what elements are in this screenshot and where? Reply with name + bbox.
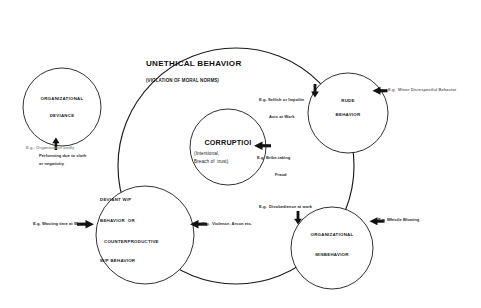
example-violence-arson: E.g. Violence, Arson etc. <box>202 220 252 227</box>
circle-label-rude-behavior-line2: BEHAVIOR <box>322 112 374 118</box>
example-bribe-taking-line1: E.g. Bribe-taking <box>257 154 290 161</box>
example-selfish-impolite-line1: E.g. Selfish or Impolite <box>259 96 304 103</box>
outer-title: UNETHICAL BEHAVIOR <box>146 58 241 70</box>
circle-label-deviant-line3: COUNTERPRODUCTIVE <box>104 239 196 245</box>
circle-label-organizational-deviance-line1: ORGANIZATIONAL <box>32 96 92 102</box>
example-wasting-time: E.g. Wasting time at Wp <box>33 220 80 227</box>
circle-label-organizational-deviance-line2: DEVIANCE <box>32 113 92 119</box>
circle-label-corruption-sub-line2: Breach of trust) <box>194 158 228 166</box>
circle-organizational-misbehavior <box>291 207 373 289</box>
diagram-canvas: UNETHICAL BEHAVIOR (VIOLATION OF MORAL N… <box>0 0 481 308</box>
circle-label-rude-behavior-line1: RUDE <box>322 98 374 104</box>
circle-label-organizational-misbehavior-line1: ORGANIZATIONAL <box>302 232 362 238</box>
circle-label-deviant-line4: W/P BEHAVIOR <box>100 258 190 264</box>
circle-organizational-deviance <box>23 68 101 146</box>
example-bribe-taking-line2: Fraud <box>275 171 287 178</box>
circle-label-corruption-sub-line1: (Intentional, <box>194 150 219 158</box>
example-organisation-badly-performing-line2: Performing due to sloth <box>39 152 86 159</box>
example-whistle-blowing: E.g. Whistle Blowing <box>378 216 419 223</box>
example-minor-disrespectful: E.g. Minor Disrespectful Behavior <box>388 86 456 93</box>
circle-label-organizational-misbehavior-line2: MISBEHAVIOR <box>302 252 362 258</box>
example-disobedience: E.g. Disobedience at work <box>259 203 312 210</box>
circle-label-corruption-title: CORRUPTIOI <box>188 138 268 148</box>
circle-label-deviant-line1: DEVIANT W/P <box>100 197 190 203</box>
example-organisation-badly-performing-line1: E.g.: Organisation badly <box>26 144 74 151</box>
outer-subtitle: (VIOLATION OF MORAL NORMS) <box>146 78 219 85</box>
circle-label-deviant-line2: BEHAVIOR OR <box>100 218 190 224</box>
example-organisation-badly-performing-line3: or negativity <box>39 160 64 167</box>
example-selfish-impolite-line2: Acts at Work <box>269 113 295 120</box>
